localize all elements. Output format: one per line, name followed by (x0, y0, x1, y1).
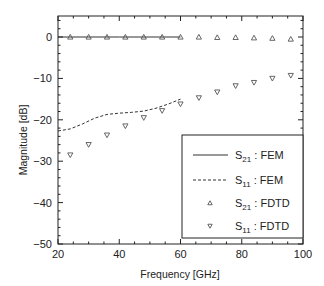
data-point-marker (288, 73, 293, 78)
y-tick-label: −20 (33, 114, 52, 126)
y-tick-label: −10 (33, 72, 52, 84)
y-tick-label: −30 (33, 155, 52, 167)
data-point-marker (104, 133, 109, 138)
x-tick-label: 100 (294, 248, 312, 260)
data-point-marker (251, 80, 256, 85)
x-axis-label: Frequency [GHz] (140, 268, 219, 280)
data-point-marker (86, 143, 91, 148)
y-tick-label: −40 (33, 197, 52, 209)
data-point-marker (68, 153, 73, 158)
legend: S21 : FEMS11 : FEMS21 : FDTDS11 : FDTD (182, 135, 303, 238)
x-tick-label: 80 (236, 248, 248, 260)
data-point-marker (123, 124, 128, 129)
data-point-marker (270, 36, 275, 41)
data-point-marker (178, 102, 183, 107)
series-line-11-fem (58, 99, 181, 131)
data-point-marker (251, 35, 256, 40)
chart: 204060801000−10−20−30−40−50 Frequency [G… (0, 0, 324, 286)
data-point-marker (233, 35, 238, 40)
data-point-marker (233, 84, 238, 89)
data-point-marker (141, 116, 146, 121)
data-point-marker (196, 96, 201, 101)
y-axis-label: Magnitude [dB] (17, 105, 29, 176)
data-point-marker (215, 35, 220, 40)
data-point-marker (196, 34, 201, 39)
data-point-marker (160, 109, 165, 114)
x-tick-label: 60 (174, 248, 186, 260)
y-tick-label: 0 (46, 31, 52, 43)
x-tick-label: 20 (52, 248, 64, 260)
y-tick-label: −50 (33, 238, 52, 250)
x-tick-label: 40 (113, 248, 125, 260)
data-point-marker (270, 76, 275, 81)
data-point-marker (288, 36, 293, 41)
data-point-marker (215, 90, 220, 95)
